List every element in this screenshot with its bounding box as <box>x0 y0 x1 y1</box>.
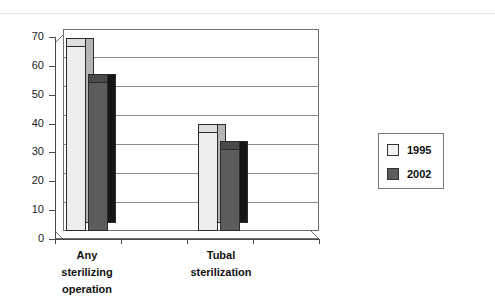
plot-floor <box>55 231 319 239</box>
y-tick-50 <box>49 95 55 96</box>
y-axis-label-10: 10 <box>14 204 44 215</box>
side-wall-bevel-icon <box>55 34 64 43</box>
x-tick-4 <box>319 239 320 244</box>
y-tick-70 <box>49 37 55 38</box>
page-root: 70 60 50 40 30 20 10 0 <box>0 0 495 297</box>
x-tick-2 <box>187 239 188 244</box>
bar-1995-any-sterilizing-operation[interactable] <box>66 46 86 231</box>
legend-label-2002: 2002 <box>407 167 431 181</box>
x-tick-0 <box>55 239 56 244</box>
gridline-60 <box>63 57 319 58</box>
cat-label-line-1: Any <box>37 247 137 264</box>
y-axis-label-40: 40 <box>14 118 44 129</box>
bar-front-face <box>220 149 240 231</box>
legend-swatch-1995 <box>387 144 399 156</box>
plot-side-wall-top <box>55 29 64 38</box>
bar-top-face <box>198 124 218 132</box>
cat-label-line-3: operation <box>37 281 137 297</box>
x-category-label-any-sterilizing-operation: Any sterilizing operation <box>37 247 137 297</box>
y-axis-label-30: 30 <box>14 146 44 157</box>
x-tick-1 <box>121 239 122 244</box>
bar-2002-any-sterilizing-operation[interactable] <box>88 82 108 231</box>
bar-top-face <box>66 38 86 46</box>
y-axis-label-50: 50 <box>14 89 44 100</box>
bar-chart: 70 60 50 40 30 20 10 0 <box>0 0 495 297</box>
legend-swatch-2002 <box>387 168 399 180</box>
cat-label-line-1: Tubal <box>166 247 276 264</box>
y-axis-label-20: 20 <box>14 175 44 186</box>
floor-bevel-icon <box>55 231 319 239</box>
bar-top-face <box>220 141 240 149</box>
bar-front-face <box>88 82 108 231</box>
y-tick-10 <box>49 210 55 211</box>
y-axis-label-70: 70 <box>14 31 44 42</box>
y-axis-label-60: 60 <box>14 60 44 71</box>
y-tick-30 <box>49 152 55 153</box>
bar-2002-tubal-sterilization[interactable] <box>220 149 240 231</box>
bar-side-face <box>108 74 116 223</box>
bar-top-face <box>88 74 108 82</box>
legend-label-1995: 1995 <box>407 143 431 157</box>
x-tick-3 <box>253 239 254 244</box>
cat-label-line-2: sterilization <box>166 264 276 281</box>
bar-1995-tubal-sterilization[interactable] <box>198 132 218 231</box>
chart-legend: 1995 2002 <box>378 133 444 189</box>
x-category-label-tubal-sterilization: Tubal sterilization <box>166 247 276 281</box>
plot-side-wall <box>55 37 63 239</box>
bar-front-face <box>198 132 218 231</box>
bar-side-face <box>240 141 248 223</box>
cat-label-line-2: sterilizing <box>37 264 137 281</box>
y-tick-40 <box>49 124 55 125</box>
y-axis-label-0: 0 <box>14 233 44 244</box>
bar-front-face <box>66 46 86 231</box>
y-tick-20 <box>49 181 55 182</box>
y-axis-line <box>55 37 56 240</box>
y-tick-60 <box>49 66 55 67</box>
